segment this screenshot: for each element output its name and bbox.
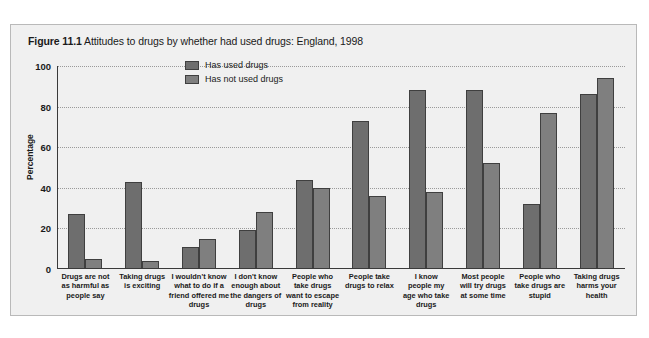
y-tick-label: 0 (46, 264, 51, 275)
x-axis-label-line: will try drugs (452, 281, 515, 290)
legend-swatch-icon (185, 75, 199, 84)
legend-label: Has used drugs (205, 60, 268, 70)
y-tick-label: 80 (40, 101, 51, 112)
figure-title: Figure 11.1 Attitudes to drugs by whethe… (28, 35, 363, 47)
x-axis-label-line: take drugs are (508, 281, 571, 290)
bar-group (68, 66, 102, 269)
x-axis-label-line: from reality (281, 300, 344, 309)
x-axis-label: People whotake drugs arestupid (508, 272, 571, 300)
x-axis-label-line: People who (508, 272, 571, 281)
x-axis-label: I knowpeople myage who takedrugs (395, 272, 458, 310)
bars-layer (57, 66, 625, 269)
x-axis-label-line: Most people (452, 272, 515, 281)
x-axis-label-line: drugs to relax (338, 281, 401, 290)
bar (125, 182, 142, 269)
x-axis-label-line: stupid (508, 291, 571, 300)
x-axis-label-line: people say (54, 291, 117, 300)
legend-swatch-icon (185, 61, 199, 70)
x-axis-label: I wouldn't knowwhat to do if afriend off… (168, 272, 231, 310)
x-axis-label-line: People who (281, 272, 344, 281)
y-axis-title: Percentage (25, 134, 35, 180)
x-axis-label-line: health (565, 291, 628, 300)
x-axis-label-line: Taking drugs (111, 272, 174, 281)
bar-group (523, 66, 557, 269)
y-tick-label: 40 (40, 182, 51, 193)
bar-group (352, 66, 386, 269)
bar (483, 163, 500, 269)
figure-panel: Figure 11.1 Attitudes to drugs by whethe… (10, 24, 637, 316)
bar (426, 192, 443, 269)
x-axis-label: I don't knowenough aboutthe dangers ofdr… (224, 272, 287, 310)
x-axis-label-line: drugs (395, 300, 458, 309)
bar-group (182, 66, 216, 269)
x-axis-label-line: take drugs (281, 281, 344, 290)
bar (352, 121, 369, 269)
bar-group (409, 66, 443, 269)
y-tick-label: 100 (35, 61, 51, 72)
x-axis-labels: Drugs are notas harmful aspeople sayTaki… (57, 272, 625, 316)
bar-group (125, 66, 159, 269)
bar (199, 239, 216, 269)
y-tick-label: 60 (40, 142, 51, 153)
bar (68, 214, 85, 269)
bar (182, 247, 199, 269)
figure-title-text: Attitudes to drugs by whether had used d… (84, 35, 363, 47)
x-axis-label-line: at some time (452, 291, 515, 300)
bar-group (580, 66, 614, 269)
bar (256, 212, 273, 269)
x-axis-line (57, 268, 625, 269)
x-axis-label-line: I know (395, 272, 458, 281)
bar (540, 113, 557, 269)
bar (239, 230, 256, 269)
y-axis-line (57, 66, 58, 269)
chart-legend: Has used drugsHas not used drugs (185, 59, 283, 87)
x-axis-label: Drugs are notas harmful aspeople say (54, 272, 117, 300)
x-axis-label-line: people my (395, 281, 458, 290)
bar (369, 196, 386, 269)
x-axis-label-line: what to do if a (168, 281, 231, 290)
x-axis-label: Taking drugsharms yourhealth (565, 272, 628, 300)
bar (466, 90, 483, 269)
x-axis-label-line: People take (338, 272, 401, 281)
x-axis-label-line: enough about (224, 281, 287, 290)
plot-area: 020406080100 (57, 66, 625, 269)
x-axis-label-line: I don't know (224, 272, 287, 281)
legend-item: Has not used drugs (185, 73, 283, 85)
bar (313, 188, 330, 269)
bar (580, 94, 597, 269)
bar-group (466, 66, 500, 269)
bar (409, 90, 426, 269)
x-axis-label-line: drugs (224, 300, 287, 309)
x-axis-label: People whotake drugswant to escapefrom r… (281, 272, 344, 310)
legend-label: Has not used drugs (205, 74, 283, 84)
x-axis-label-line: as harmful as (54, 281, 117, 290)
x-axis-label: Taking drugsis exciting (111, 272, 174, 291)
legend-item: Has used drugs (185, 59, 283, 71)
x-axis-label: Most peoplewill try drugsat some time (452, 272, 515, 300)
x-axis-label-line: want to escape (281, 291, 344, 300)
bar (523, 204, 540, 269)
x-axis-label-line: I wouldn't know (168, 272, 231, 281)
x-axis-label-line: harms your (565, 281, 628, 290)
x-axis-label-line: Taking drugs (565, 272, 628, 281)
x-axis-label-line: the dangers of (224, 291, 287, 300)
bar-group (239, 66, 273, 269)
x-axis-label-line: age who take (395, 291, 458, 300)
bar (296, 180, 313, 269)
x-axis-label-line: Drugs are not (54, 272, 117, 281)
x-axis-label-line: friend offered me (168, 291, 231, 300)
x-axis-label-line: drugs (168, 300, 231, 309)
figure-number: Figure 11.1 (28, 35, 82, 47)
bar-group (296, 66, 330, 269)
bar (597, 78, 614, 269)
x-axis-label: People takedrugs to relax (338, 272, 401, 291)
y-tick-label: 20 (40, 223, 51, 234)
x-axis-label-line: is exciting (111, 281, 174, 290)
